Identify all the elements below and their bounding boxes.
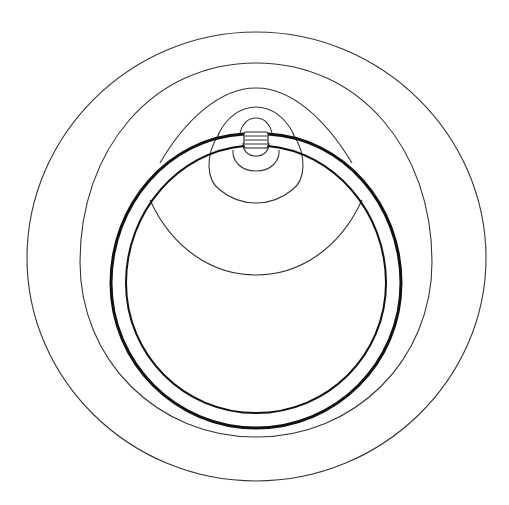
contour-inner-arc xyxy=(150,200,362,275)
contour-small-top xyxy=(240,118,272,133)
ring-outer-edge xyxy=(111,134,401,428)
contour-second xyxy=(80,63,432,437)
contour-small-arc xyxy=(233,150,279,171)
diagram-svg xyxy=(0,0,509,505)
gap-source xyxy=(244,132,268,148)
contour-third xyxy=(160,88,352,163)
ring-inner-edge xyxy=(126,146,386,413)
ring-conductor xyxy=(111,134,401,428)
contour-source-top xyxy=(218,107,294,135)
contour-diagram xyxy=(0,0,509,505)
